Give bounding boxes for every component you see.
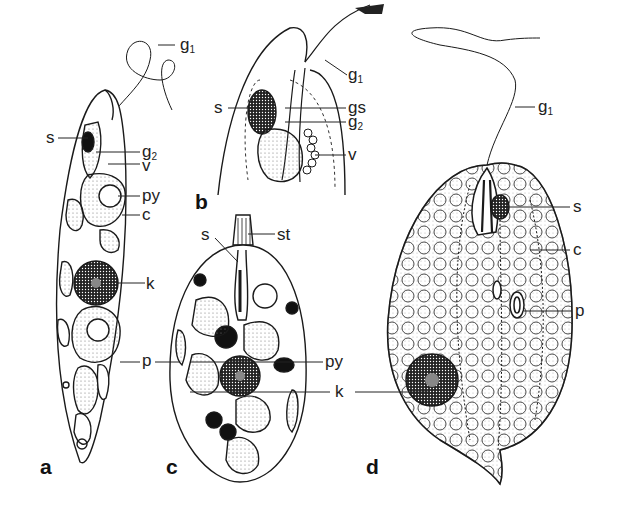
panel-c-cell: [170, 215, 306, 482]
label-b-v: v: [348, 146, 357, 163]
label-a-v: v: [142, 157, 151, 174]
label-a-py: py: [142, 187, 160, 204]
label-a-c: c: [142, 206, 151, 223]
panel-letter-d: d: [366, 455, 379, 479]
label-d-p: p: [575, 302, 584, 319]
label-a-p: p: [142, 352, 151, 369]
label-d-s: s: [573, 198, 582, 215]
panel-letter-b: b: [195, 190, 208, 214]
label-d-g1: g1: [538, 98, 553, 117]
label-a-k: k: [146, 275, 155, 292]
label-b-g1: g1: [348, 66, 363, 85]
label-b-g2: g2: [348, 113, 363, 132]
label-c-st: st: [277, 226, 290, 243]
label-d-c: c: [573, 241, 582, 258]
label-c-k: k: [335, 383, 344, 400]
panel-letter-a: a: [40, 455, 52, 479]
diagram-canvas: [0, 0, 617, 515]
label-c-s: s: [201, 226, 210, 243]
label-a-s: s: [46, 129, 55, 146]
panel-a-cell: [57, 41, 175, 462]
panel-letter-c: c: [166, 455, 178, 479]
label-c-py: py: [325, 353, 343, 370]
label-a-g1: g1: [180, 36, 195, 55]
label-b-s: s: [214, 99, 223, 116]
contractile-vacuoles: [303, 129, 319, 174]
